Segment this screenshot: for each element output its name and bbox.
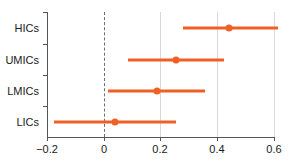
x-axis-label-0.6: 0.6	[254, 143, 291, 155]
x-axis-line	[47, 137, 275, 138]
clipped-caption-text	[120, 159, 290, 165]
x-axis-label--0.2: −0.2	[27, 143, 67, 155]
gridline-0.2	[160, 12, 161, 137]
estimate-point-umics	[173, 57, 180, 64]
y-axis-label-hics: HICs	[15, 22, 39, 34]
x-axis-label-0.4: 0.4	[197, 143, 237, 155]
x-axis-label-0.2: 0.2	[140, 143, 180, 155]
x-axis-label-0: 0	[84, 143, 124, 155]
y-axis-label-lmics: LMICs	[7, 85, 39, 97]
y-axis-line	[47, 12, 48, 138]
x-tick-0.6	[274, 137, 275, 141]
estimate-point-lmics	[153, 88, 160, 95]
chart-screenshot: HICs UMICs LMICs LICs −0.2 0 0.2 0.4 0.6	[0, 0, 291, 165]
y-tick-hics	[43, 12, 47, 13]
forest-plot: HICs UMICs LMICs LICs −0.2 0 0.2 0.4 0.6	[0, 0, 291, 165]
y-tick-umics	[43, 44, 47, 45]
estimate-point-lics	[112, 119, 119, 126]
y-tick-lmics	[43, 75, 47, 76]
x-tick-0.2	[160, 137, 161, 141]
y-tick-lics	[43, 106, 47, 107]
estimate-point-hics	[225, 25, 232, 32]
x-tick--0.2	[47, 137, 48, 141]
zero-reference-line	[104, 12, 105, 137]
x-tick-0.4	[217, 137, 218, 141]
gridline-0.6	[274, 12, 275, 137]
x-tick-0	[104, 137, 105, 141]
y-axis-label-lics: LICs	[16, 116, 39, 128]
y-axis-label-umics: UMICs	[5, 54, 39, 66]
gridline-0.4	[217, 12, 218, 137]
